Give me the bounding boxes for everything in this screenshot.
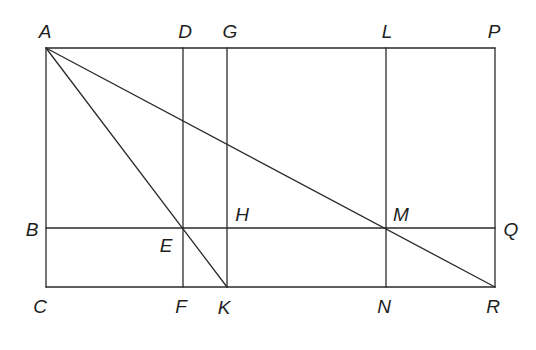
point-labels: ADGLPBHEMQCFKNR: [26, 21, 519, 318]
point-label-q: Q: [504, 219, 519, 240]
segment-ar: [46, 48, 495, 287]
point-label-d: D: [178, 21, 192, 42]
point-label-k: K: [218, 297, 232, 318]
line-segments: [46, 48, 495, 287]
geometry-diagram: ADGLPBHEMQCFKNR: [0, 0, 536, 350]
point-label-r: R: [486, 296, 500, 317]
point-label-b: B: [26, 219, 39, 240]
segment-ak: [46, 48, 227, 287]
point-label-f: F: [175, 296, 188, 317]
point-label-g: G: [223, 21, 238, 42]
point-label-e: E: [160, 235, 173, 256]
point-label-h: H: [235, 204, 249, 225]
point-label-a: A: [38, 21, 52, 42]
point-label-p: P: [488, 21, 501, 42]
point-label-c: C: [33, 296, 47, 317]
point-label-l: L: [382, 21, 393, 42]
point-label-m: M: [393, 204, 409, 225]
point-label-n: N: [377, 296, 391, 317]
